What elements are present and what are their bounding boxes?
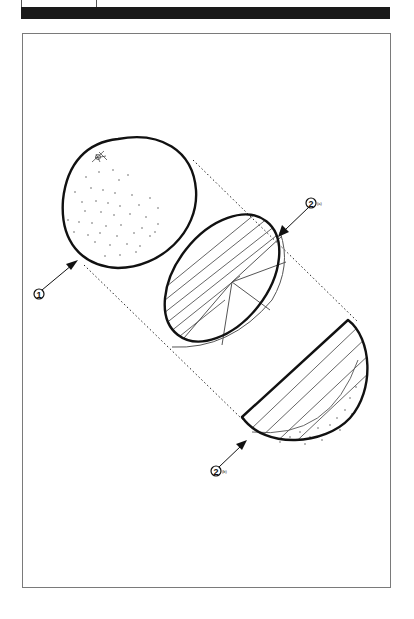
arrow-head-icon	[278, 225, 289, 237]
arrow-head-icon	[236, 440, 247, 450]
callout-2a-number: 2	[308, 199, 313, 209]
callout-1-number: 1	[36, 290, 41, 300]
callout-1: 1	[34, 260, 78, 300]
callout-2a-suffix: (a)	[317, 201, 323, 206]
callout-2b-suffix: (b)	[222, 469, 228, 474]
callout-2b-number: 2	[213, 467, 218, 477]
orange-half-wedge	[242, 320, 372, 452]
whole-orange	[63, 137, 196, 268]
callout-2a: 2 (a)	[278, 198, 323, 237]
callout-2b: 2 (b)	[211, 440, 247, 477]
orange-diagram: 1 2 (a) 2 (b)	[0, 0, 414, 619]
